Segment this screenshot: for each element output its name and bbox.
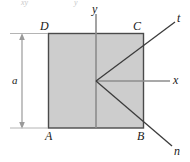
axis-label-n: n xyxy=(174,145,180,157)
dimension-arrow-top xyxy=(19,33,25,40)
corner-label-d: D xyxy=(40,20,49,32)
corner-label-a: A xyxy=(45,130,52,142)
figure-canvas: xy y D C A B y x t n a xyxy=(0,0,190,162)
axis-label-x: x xyxy=(173,74,178,86)
dimension-label-a: a xyxy=(12,75,18,86)
axis-label-y: y xyxy=(92,3,97,15)
diagram-svg xyxy=(0,0,190,162)
corner-label-c: C xyxy=(133,20,141,32)
corner-label-b: B xyxy=(137,130,144,142)
axis-label-t: t xyxy=(177,12,180,24)
